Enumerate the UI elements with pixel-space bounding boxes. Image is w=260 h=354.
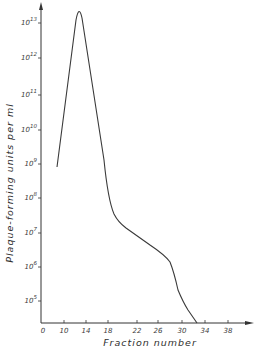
y-tick-label: 105 <box>25 294 38 305</box>
x-ticks: 01014182226303438 <box>41 320 233 335</box>
x-tick-label: 34 <box>201 327 210 335</box>
y-tick-label: 106 <box>25 260 38 271</box>
x-tick-label: 26 <box>154 327 163 335</box>
x-tick-label: 22 <box>133 327 142 335</box>
x-tick-label: 0 <box>41 327 46 335</box>
y-tick-label: 1011 <box>21 88 37 99</box>
y-tick-label: 1013 <box>21 16 37 27</box>
x-axis-title: Fraction number <box>103 337 197 348</box>
y-tick-label: 107 <box>25 226 38 237</box>
y-ticks: 1051061071081091010101110121013 <box>21 16 41 305</box>
data-curve <box>57 11 197 323</box>
chart: 1051061071081091010101110121013 01014182… <box>0 0 260 354</box>
x-tick-label: 18 <box>104 327 113 335</box>
x-axis-arrow-icon <box>245 321 254 325</box>
y-tick-label: 1010 <box>21 123 37 134</box>
x-tick-label: 38 <box>224 327 233 335</box>
x-tick-label: 10 <box>60 327 69 335</box>
y-tick-label: 1012 <box>21 51 37 62</box>
y-tick-label: 108 <box>25 191 38 202</box>
x-tick-label: 30 <box>178 327 187 335</box>
y-tick-label: 109 <box>25 157 38 168</box>
y-axis-title: Plaque-forming units per ml <box>4 103 15 263</box>
y-axis-arrow-icon <box>39 2 43 10</box>
x-tick-label: 14 <box>82 327 91 335</box>
